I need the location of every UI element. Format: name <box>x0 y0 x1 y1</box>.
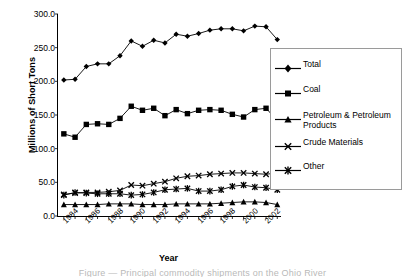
y-tick-label: 250.0 <box>8 44 55 52</box>
x-axis-title: Year <box>57 253 280 263</box>
y-tick-label: 300.0 <box>8 10 55 18</box>
legend-label: Other <box>301 161 324 171</box>
legend-label-line1: Petroleum & Petroleum <box>303 110 391 120</box>
legend-label: Total <box>301 59 321 69</box>
legend-label: Crude Materials <box>301 137 363 147</box>
legend-item-total[interactable]: Total <box>275 59 321 70</box>
y-tick-label: 50.0 <box>8 178 55 186</box>
y-tick-label: 200.0 <box>8 77 55 85</box>
diamond-marker-icon <box>275 60 301 71</box>
plot-svg <box>58 14 281 216</box>
legend-label: Petroleum & PetroleumProducts <box>301 110 391 130</box>
y-tick-label: 0.0 <box>8 212 55 220</box>
legend-label-line2: Products <box>303 120 337 130</box>
chart-container: Millions of Short Tons 300.0 250.0 200.0… <box>0 0 405 277</box>
cross-marker-icon <box>275 138 301 149</box>
legend-item-petroleum[interactable]: Petroleum & PetroleumProducts <box>275 110 391 130</box>
y-axis-tick-labels: 300.0 250.0 200.0 150.0 100.0 50.0 0.0 <box>8 0 55 277</box>
plot-area <box>57 14 281 217</box>
figure-caption: Figure — Principal commodity shipments o… <box>0 268 405 277</box>
legend-item-other[interactable]: Other <box>275 161 324 172</box>
square-marker-icon <box>275 85 301 96</box>
asterisk-marker-icon <box>275 162 301 173</box>
chart-legend: Total Coal Petroleum & PetroleumProducts… <box>270 48 402 190</box>
triangle-marker-icon <box>275 111 301 122</box>
y-tick-label: 100.0 <box>8 145 55 153</box>
y-tick-label: 150.0 <box>8 111 55 119</box>
legend-item-coal[interactable]: Coal <box>275 84 320 95</box>
legend-label: Coal <box>301 84 320 94</box>
legend-item-crude-materials[interactable]: Crude Materials <box>275 137 363 148</box>
